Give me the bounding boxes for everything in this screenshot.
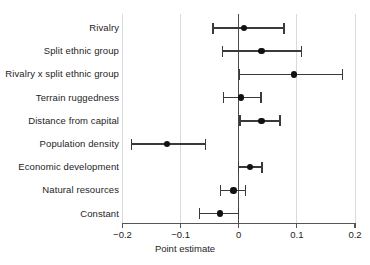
category-label: Economic development: [18, 162, 119, 172]
category-label: Constant: [80, 209, 119, 219]
gridline: [355, 14, 356, 223]
point-estimate-marker: [247, 164, 253, 170]
point-estimate-marker: [230, 187, 236, 193]
ci-upper-cap: [283, 23, 284, 34]
ci-lower-cap: [212, 23, 213, 34]
ci-lower-cap: [223, 92, 224, 103]
point-estimate-marker: [241, 25, 247, 31]
x-axis-title: Point estimate: [0, 243, 370, 254]
point-estimate-marker: [164, 141, 170, 147]
point-estimate-marker: [217, 210, 223, 216]
x-axis-tick: [122, 223, 123, 228]
coefficient-row: [0, 28, 370, 29]
ci-lower-cap: [199, 208, 200, 219]
ci-lower-cap: [239, 69, 240, 80]
point-estimate-marker: [258, 48, 264, 54]
ci-upper-cap: [260, 92, 261, 103]
coefficient-plot-figure: RivalrySplit ethnic groupRivalry x split…: [0, 0, 370, 265]
x-axis-tick-label: −0.2: [113, 229, 132, 240]
ci-upper-cap: [205, 139, 206, 150]
x-axis-tick-label: −0.1: [171, 229, 190, 240]
ci-lower-cap: [239, 115, 240, 126]
ci-upper-cap: [342, 69, 343, 80]
category-label: Rivalry x split ethnic group: [5, 69, 119, 79]
gridline: [296, 14, 297, 223]
ci-upper-cap: [245, 185, 246, 196]
x-axis-tick: [238, 223, 239, 228]
ci-upper-cap: [261, 162, 262, 173]
x-axis-tick-label: 0: [236, 229, 241, 240]
category-label: Terrain ruggedness: [36, 93, 119, 103]
ci-lower-cap: [220, 185, 221, 196]
point-estimate-marker: [258, 118, 264, 124]
ci-upper-cap: [279, 115, 280, 126]
x-axis-tick: [354, 223, 355, 228]
point-estimate-marker: [238, 94, 244, 100]
ci-upper-cap: [238, 208, 239, 219]
ci-upper-cap: [301, 46, 302, 57]
x-axis-tick: [296, 223, 297, 228]
point-estimate-marker: [291, 71, 297, 77]
gridline: [180, 14, 181, 223]
category-label: Population density: [40, 139, 119, 149]
gridline: [122, 14, 123, 223]
category-label: Rivalry: [89, 23, 119, 33]
category-label: Split ethnic group: [44, 46, 119, 56]
ci-lower-cap: [222, 46, 223, 57]
x-axis-tick-label: 0.1: [290, 229, 303, 240]
coefficient-row: [0, 214, 370, 215]
ci-lower-cap: [131, 139, 132, 150]
x-axis-tick: [180, 223, 181, 228]
ci-lower-cap: [238, 162, 239, 173]
category-label: Distance from capital: [28, 116, 119, 126]
confidence-interval-bar: [213, 27, 284, 29]
category-label: Natural resources: [42, 185, 119, 195]
x-axis-tick-label: 0.2: [348, 229, 361, 240]
